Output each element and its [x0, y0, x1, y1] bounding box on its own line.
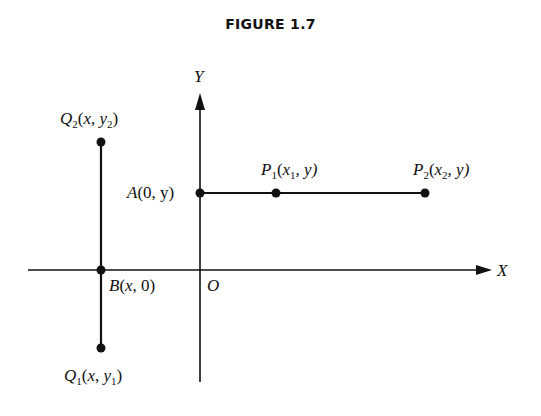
origin-label: O	[207, 277, 219, 294]
point-p1	[272, 189, 281, 198]
label-p2: P2(x2, y)	[413, 161, 469, 178]
label-q1: Q1(x, y1)	[64, 367, 122, 384]
point-p2	[421, 189, 430, 198]
y-axis-label: Y	[194, 68, 203, 85]
label-a: A(0, y)	[127, 184, 174, 201]
label-b: B(x, 0)	[109, 277, 155, 294]
point-a	[196, 189, 205, 198]
label-p1: P1(x1, y)	[261, 161, 317, 178]
point-b	[97, 266, 106, 275]
y-axis-arrow-icon	[195, 93, 205, 110]
x-axis-arrow-icon	[476, 265, 492, 275]
coordinate-diagram	[0, 0, 541, 416]
point-q2	[97, 138, 106, 147]
point-q1	[97, 344, 106, 353]
x-axis-label: X	[497, 262, 507, 279]
label-q2: Q2(x, y2)	[60, 110, 118, 127]
